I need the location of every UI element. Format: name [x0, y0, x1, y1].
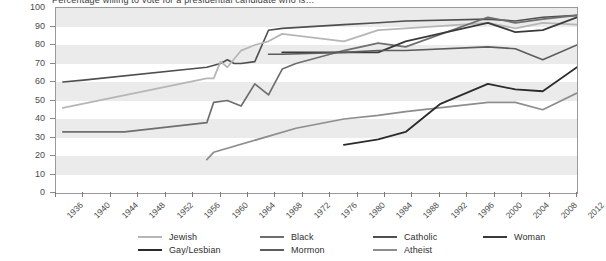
- x-tick-mark: [82, 192, 83, 197]
- x-tick-mark: [110, 192, 111, 197]
- legend-swatch-icon: [373, 249, 397, 251]
- legend-swatch-icon: [373, 236, 397, 238]
- legend-swatch-icon: [260, 249, 284, 251]
- legend-label: Gay/Lesbian: [169, 245, 221, 255]
- legend-item-gay-lesbian[interactable]: Gay/Lesbian: [138, 243, 221, 256]
- chart-title-cropped: Percentage willing to vote for a preside…: [0, 0, 598, 5]
- y-tick-label: 20: [5, 150, 45, 160]
- x-tick-mark: [137, 192, 138, 197]
- x-tick-mark: [466, 192, 467, 197]
- x-tick-label: 1972: [311, 200, 331, 220]
- legend-swatch-icon: [260, 236, 284, 238]
- x-tick-mark: [302, 192, 303, 197]
- x-tick-label: 1976: [339, 200, 359, 220]
- legend-label: Black: [291, 232, 314, 242]
- x-tick-mark: [494, 192, 495, 197]
- x-tick-mark: [357, 192, 358, 197]
- legend-column: CatholicAtheist: [373, 230, 437, 256]
- legend-label: Jewish: [169, 232, 197, 242]
- x-tick-mark: [220, 192, 221, 197]
- x-tick-mark: [192, 192, 193, 197]
- legend-label: Woman: [514, 232, 545, 242]
- y-tick-label: 100: [5, 2, 45, 12]
- legend-label: Atheist: [404, 245, 432, 255]
- x-tick-label: 2012: [586, 200, 606, 220]
- legend-column: BlackMormon: [260, 230, 325, 256]
- plot-area: [55, 7, 578, 194]
- x-tick-mark: [549, 192, 550, 197]
- legend-swatch-icon: [483, 236, 507, 238]
- y-tick-label: 80: [5, 39, 45, 49]
- x-tick-label: 2008: [558, 200, 578, 220]
- y-tick-label: 0: [5, 187, 45, 197]
- legend-label: Catholic: [404, 232, 437, 242]
- x-tick-mark: [521, 192, 522, 197]
- x-tick-label: 1948: [147, 200, 167, 220]
- y-tick-label: 30: [5, 132, 45, 142]
- y-tick-label: 90: [5, 21, 45, 31]
- x-tick-mark: [55, 192, 56, 197]
- chart-legend: JewishGay/LesbianBlackMormonCatholicAthe…: [138, 230, 578, 258]
- x-tick-label: 1956: [202, 200, 222, 220]
- x-tick-label: 1944: [119, 200, 139, 220]
- series-line-jewish: [63, 23, 577, 108]
- x-tick-mark: [439, 192, 440, 197]
- x-tick-label: 1968: [284, 200, 304, 220]
- x-tick-label: 1952: [174, 200, 194, 220]
- y-tick-label: 50: [5, 95, 45, 105]
- x-tick-label: 1984: [394, 200, 414, 220]
- x-tick-label: 1940: [92, 200, 112, 220]
- x-tick-mark: [274, 192, 275, 197]
- x-tick-mark: [247, 192, 248, 197]
- legend-item-mormon[interactable]: Mormon: [260, 243, 325, 256]
- legend-item-catholic[interactable]: Catholic: [373, 230, 437, 243]
- x-tick-label: 1980: [366, 200, 386, 220]
- legend-item-jewish[interactable]: Jewish: [138, 230, 221, 243]
- x-tick-label: 2004: [531, 200, 551, 220]
- y-axis: 0102030405060708090100: [0, 0, 55, 200]
- x-tick-label: 1936: [65, 200, 85, 220]
- chart-title-text: Percentage willing to vote for a preside…: [52, 0, 598, 5]
- x-tick-mark: [165, 192, 166, 197]
- y-tick-label: 60: [5, 76, 45, 86]
- x-tick-mark: [576, 192, 577, 197]
- legend-swatch-icon: [138, 236, 162, 238]
- legend-column: Woman: [483, 230, 545, 243]
- x-tick-mark: [329, 192, 330, 197]
- series-line-woman: [282, 17, 577, 52]
- x-tick-label: 1992: [448, 200, 468, 220]
- x-tick-label: 1988: [421, 200, 441, 220]
- legend-swatch-icon: [138, 249, 162, 251]
- y-tick-label: 70: [5, 58, 45, 68]
- legend-label: Mormon: [291, 245, 325, 255]
- x-tick-label: 1964: [256, 200, 276, 220]
- series-line-atheist: [207, 93, 577, 160]
- x-tick-label: 1960: [229, 200, 249, 220]
- x-tick-label: 1996: [476, 200, 496, 220]
- x-tick-mark: [411, 192, 412, 197]
- y-tick-label: 40: [5, 113, 45, 123]
- x-tick-label: 2000: [503, 200, 523, 220]
- legend-column: JewishGay/Lesbian: [138, 230, 221, 256]
- legend-item-atheist[interactable]: Atheist: [373, 243, 437, 256]
- legend-item-woman[interactable]: Woman: [483, 230, 545, 243]
- x-tick-mark: [384, 192, 385, 197]
- y-tick-label: 10: [5, 169, 45, 179]
- series-lines: [56, 8, 577, 193]
- legend-item-black[interactable]: Black: [260, 230, 325, 243]
